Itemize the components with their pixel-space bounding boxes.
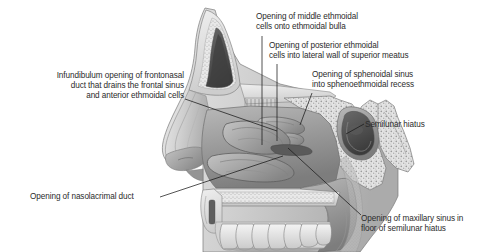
label-semilunar-hiatus: Semilunar hiatus: [365, 120, 425, 130]
label-posterior-ethmoidal: Opening of posterior ethmoidal cells int…: [269, 41, 408, 61]
label-sphenoidal-sinus: Opening of sphenoidal sinus into sphenoe…: [312, 70, 414, 90]
upper-teeth: [215, 222, 331, 250]
label-middle-ethmoidal: Opening of middle ethmoidal cells onto e…: [256, 12, 358, 32]
anatomical-figure: Opening of middle ethmoidal cells onto e…: [0, 0, 504, 252]
hard-palate: [206, 189, 340, 206]
label-nasolacrimal-duct: Opening of nasolacrimal duct: [30, 192, 134, 202]
label-maxillary-sinus: Opening of maxillary sinus in floor of s…: [361, 214, 463, 234]
frontal-sinus-region: [189, 10, 240, 95]
label-infundibulum: Infundibulum opening of frontonasal duct…: [14, 71, 184, 102]
